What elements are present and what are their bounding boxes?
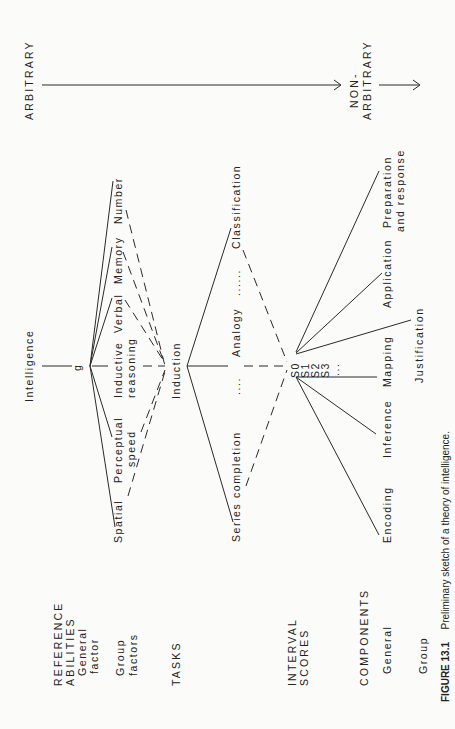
general-factor-label-line2: factor — [88, 638, 100, 674]
s0-to-inference-line — [296, 377, 376, 434]
non-arbitrary-label-line1: NON- — [348, 72, 360, 108]
components-group-label: Group — [417, 637, 429, 674]
components-general-label: General — [381, 625, 393, 674]
memory-label: Memory — [112, 236, 124, 284]
g-to-memory-line — [90, 247, 112, 366]
group-factors-label-line1: Group — [114, 639, 126, 676]
non-arbitrary-label-line2: ARBITRARY — [361, 40, 373, 120]
g-label: g — [71, 364, 83, 371]
encoding-label: Encoding — [381, 486, 393, 543]
preparation-label-line1: Preparation — [381, 156, 393, 228]
series-to-s0-dash — [246, 370, 287, 486]
tasks-dots-1: ...... — [230, 269, 242, 296]
general-factor-label-line1: General — [76, 627, 88, 676]
analogy-label: Analogy — [230, 308, 242, 357]
perceptual-to-induction-dash — [141, 370, 165, 432]
application-label: Application — [381, 239, 393, 308]
number-label: Number — [112, 177, 124, 224]
figure-caption: FIGURE 13.1 Preliminary sketch of a theo… — [435, 431, 452, 702]
tasks-dots-2: .... — [230, 377, 242, 395]
figure-caption-label: FIGURE 13.1 — [440, 642, 451, 702]
series-completion-label: Series completion — [230, 431, 242, 542]
classification-label: Classification — [230, 165, 242, 249]
g-to-number-line — [90, 181, 113, 366]
induction-to-classification-line — [187, 228, 231, 366]
tasks-header: TASKS — [170, 641, 182, 686]
spatial-label: Spatial — [112, 500, 124, 543]
perceptual-label-line2: speed — [125, 430, 137, 467]
interval-scores-header-line2: SCORES — [298, 628, 310, 686]
intelligence-label: Intelligence — [23, 330, 35, 402]
components-header: COMPONENTS — [358, 589, 370, 686]
reference-abilities-header-line1: REFERENCE — [52, 601, 64, 686]
intelligence-theory-diagram: ARBITRARY NON- ARBITRARY Intelligence g … — [0, 0, 455, 729]
s0-to-encoding-line — [296, 377, 379, 535]
induction-label: Induction — [170, 342, 182, 399]
figure-caption-text: Preliminary sketch of a theory of intell… — [440, 431, 451, 629]
g-to-perceptual-line — [90, 366, 112, 437]
perceptual-label-line1: Perceptual — [112, 417, 124, 483]
s0-to-preparation-line — [296, 171, 379, 352]
scores-ellipsis: ... — [329, 362, 341, 376]
preparation-label-line2: and response — [394, 149, 406, 232]
inference-label: Inference — [381, 400, 393, 458]
inductive-label-line1: Inductive — [112, 342, 124, 398]
arbitrary-label: ARBITRARY — [23, 40, 35, 120]
justification-label: Justification — [413, 307, 425, 383]
reference-abilities-header-line2: ABILITIES — [64, 617, 76, 686]
interval-scores-header-line1: INTERVAL — [286, 618, 298, 686]
classification-to-s0-dash — [243, 250, 287, 362]
group-factors-label-line2: factors — [127, 633, 139, 676]
mapping-label: Mapping — [381, 336, 393, 387]
inductive-label-line2: reasoning — [125, 337, 137, 398]
verbal-label: Verbal — [112, 294, 124, 333]
induction-to-series-line — [187, 366, 233, 522]
